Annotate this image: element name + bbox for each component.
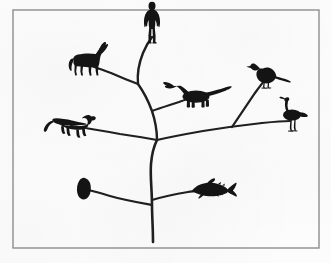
branch-branch-wading-bird xyxy=(262,121,290,123)
figure-border xyxy=(13,10,319,248)
dog-silhouette xyxy=(44,115,96,138)
branch-branch-invertebrate xyxy=(85,189,152,205)
branch-branch-horse xyxy=(92,66,138,84)
songbird-silhouette xyxy=(246,64,291,89)
branch-branch-songbird xyxy=(232,79,266,127)
tree-canvas xyxy=(0,0,331,263)
branch-branch-human xyxy=(138,37,152,84)
wading-bird-silhouette xyxy=(279,97,307,132)
invertebrate-silhouette xyxy=(77,178,91,200)
branch-trunk xyxy=(151,140,157,242)
phylogenetic-tree-figure xyxy=(0,0,331,263)
fish-silhouette xyxy=(192,178,237,198)
branch-branch-upper-stem xyxy=(138,84,157,140)
branch-fork-right-low xyxy=(157,123,262,140)
animal-silhouettes xyxy=(44,2,308,200)
